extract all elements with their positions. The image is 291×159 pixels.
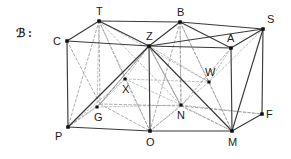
hidden-edge-C-T_back_bottom: [67, 41, 100, 104]
vertex-label-T: T: [96, 6, 103, 17]
vertex-dot-C: [65, 39, 69, 43]
vertex-label-O: O: [146, 137, 155, 148]
vertex-label-Z: Z: [146, 31, 153, 42]
vertex-dot-B: [178, 20, 182, 24]
vertex-dot-N: [179, 103, 182, 106]
interior-ray-P-G: [68, 107, 97, 127]
vertex-label-G: G: [94, 112, 103, 123]
vertex-label-W: W: [205, 67, 216, 78]
geometry-diagram: ℬ : TBSCZAPOMFXWGN: [0, 0, 291, 159]
edge-A-M: [231, 48, 232, 131]
edge-T-C: [67, 21, 99, 41]
edge-Z-O: [149, 46, 150, 131]
vertex-label-S: S: [267, 14, 275, 25]
interior-ray-T-N: [99, 21, 181, 105]
hidden-edge-T_back_bottom-O: [100, 104, 150, 131]
interior-ray-B-N: [180, 22, 181, 105]
vertex-dot-O: [148, 129, 152, 133]
vertex-dot-X: [123, 77, 126, 80]
vertex-dot-M: [230, 129, 234, 133]
vertex-label-M: M: [228, 137, 237, 148]
hidden-edge-T-T_back_bottom: [99, 21, 100, 104]
vertex-label-A: A: [227, 33, 235, 44]
vertex-label-F: F: [266, 109, 273, 120]
vertex-dot-P: [66, 125, 70, 129]
edge-Z-A: [149, 46, 231, 48]
vertex-dot-W: [207, 80, 210, 83]
vertex-label-P: P: [55, 131, 63, 142]
edge-C-P: [67, 41, 68, 127]
vertex-dot-F: [260, 112, 264, 116]
edge-T-B: [99, 21, 180, 22]
edge-S-F: [262, 29, 263, 114]
vertex-label-N: N: [177, 110, 185, 121]
interior-ray-M-W: [209, 82, 232, 131]
vertex-dot-S: [261, 27, 265, 31]
vertex-dot-A: [229, 46, 233, 50]
edge-P-O: [68, 127, 150, 131]
vertex-label-B: B: [177, 7, 185, 18]
interior-ray-T-X: [99, 21, 125, 79]
vertex-dot-Z: [147, 44, 151, 48]
edge-T-Z: [99, 21, 149, 46]
interior-ray-X-N: [125, 79, 181, 105]
vertex-label-C: C: [53, 36, 61, 47]
vertex-dot-T: [97, 19, 101, 23]
interior-ray-T-G: [97, 21, 99, 107]
interior-ray-Z-N: [149, 46, 181, 105]
vertex-dot-G: [95, 105, 98, 108]
edge-S-Z: [149, 29, 263, 46]
vertex-label-X: X: [122, 84, 130, 95]
